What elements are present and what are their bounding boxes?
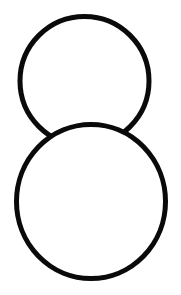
bottom-circle — [17, 125, 166, 279]
diagram-canvas — [0, 0, 181, 295]
two-circles-figure — [0, 0, 181, 295]
